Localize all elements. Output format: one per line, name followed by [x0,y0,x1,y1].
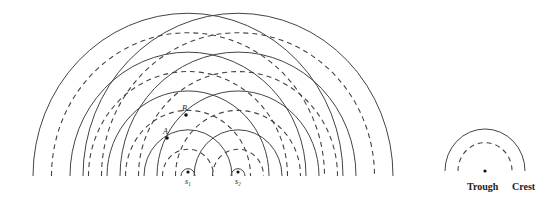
trough-arc [139,72,338,176]
trough-arc [52,33,325,176]
interference-diagram: AB s₁s₂ Trough Crest [0,0,560,200]
wave-arcs [33,13,393,176]
crest-arc [33,13,343,176]
trough-arc [126,110,251,176]
source-dot-icon [186,170,189,173]
legend-crest-arc [445,129,525,171]
crest-trough-legend [445,129,525,173]
source-dot-icon [236,170,239,173]
point-label: B [182,104,187,113]
crest-arc [83,13,393,176]
legend-source-dot-icon [483,169,486,172]
trough-arc [176,110,301,176]
trough-arc [102,33,375,176]
trough-label: Trough [467,181,499,192]
source-label: s₂ [235,177,241,186]
crest-arc [120,52,356,176]
source-label: s₁ [185,177,191,186]
point-marker-icon [165,136,169,140]
point-label: A [162,127,168,136]
trough-arc [89,72,288,176]
crest-arc [70,52,306,176]
point-marker-icon [184,113,188,117]
legend-trough-arc [458,143,512,171]
crest-arc [107,91,269,176]
crest-label: Crest [512,181,536,192]
